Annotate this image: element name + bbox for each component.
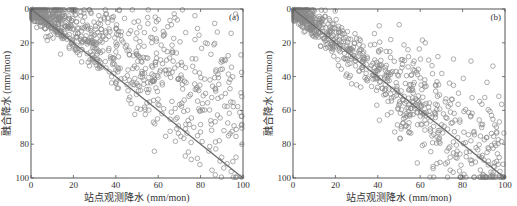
data-point [146,8,151,13]
data-point [477,143,482,148]
data-point [421,95,426,100]
data-point [170,43,175,48]
data-point [379,58,384,63]
data-point [354,83,359,88]
data-point [200,139,205,144]
data-point [478,168,483,173]
panel-label: (a) [229,12,239,22]
x-tick-label: 100 [236,180,250,190]
data-point [429,149,434,154]
data-point [127,78,132,83]
data-point [453,118,458,123]
data-point [388,37,393,42]
data-point [417,47,422,52]
data-point [415,161,420,166]
data-point [156,75,161,80]
data-point [109,81,114,86]
data-point [199,75,204,80]
data-point [213,173,218,178]
data-point [372,31,377,36]
data-point [420,38,425,43]
data-point [145,15,150,20]
x-axis-label: 站点观测降水 (mm/mon) [346,191,451,204]
chart-b-svg: 020406080100020406080100站点观测降水 (mm/mon)融… [262,0,517,206]
data-point [136,45,141,50]
data-point [406,54,411,59]
data-point [353,64,358,69]
data-point [167,71,172,76]
data-point [79,29,84,34]
data-point [234,127,239,132]
data-point [170,99,175,104]
chart-a-svg: 020406080100020406080100站点观测降水 (mm/mon)融… [0,0,258,206]
data-point [197,33,202,38]
data-point [225,121,230,126]
data-point [125,73,130,78]
data-point [150,40,155,45]
data-point [456,102,461,107]
data-point [142,30,147,35]
data-point [229,65,234,70]
data-point [180,8,185,13]
data-point [187,122,192,127]
data-point [223,91,228,96]
data-point [135,31,140,36]
y-tick-label: 40 [20,72,30,82]
data-point [402,43,407,48]
data-point [114,50,119,55]
data-point [423,41,428,46]
data-point [483,95,488,100]
data-point [436,54,441,59]
data-point [215,113,220,118]
data-point [433,89,438,94]
x-tick-label: 80 [196,180,206,190]
data-point [456,91,461,96]
x-tick-label: 40 [373,180,383,190]
data-point [180,87,185,92]
data-point [440,71,445,76]
data-point [92,33,97,38]
data-point [383,92,388,97]
data-point [199,46,204,51]
data-point [169,110,174,115]
data-point [106,20,111,25]
data-point [146,90,151,95]
data-point [212,21,217,26]
data-point [234,155,239,160]
data-point [116,55,121,60]
data-point [209,52,214,57]
panel-label: (b) [491,12,502,22]
data-point [398,70,403,75]
data-point [412,59,417,64]
data-point [479,125,484,130]
data-point [126,68,131,73]
data-point [183,30,188,35]
data-point [448,145,453,150]
data-point [228,77,233,82]
data-point [502,131,507,136]
data-point [375,85,380,90]
data-point [497,120,502,125]
data-point [169,23,174,28]
data-point [126,88,131,93]
data-point [208,78,213,83]
data-point [192,82,197,87]
y-tick-label: 20 [20,38,30,48]
data-point [207,108,212,113]
data-point [339,67,344,72]
data-point [182,98,187,103]
data-point [420,87,425,92]
data-point [384,49,389,54]
data-point [491,64,496,69]
data-point [411,61,416,66]
scatter-panel-a: 020406080100020406080100站点观测降水 (mm/mon)融… [0,0,258,206]
data-point [457,169,462,174]
data-point [210,168,215,173]
x-tick-label: 40 [111,180,121,190]
data-point [158,58,163,63]
data-point [79,60,84,65]
x-tick-label: 0 [291,180,296,190]
data-point [462,130,467,135]
y-tick-label: 100 [16,173,30,183]
data-point [154,51,159,56]
